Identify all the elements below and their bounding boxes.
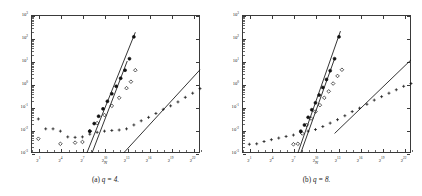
y-tick-label-a-5: 10-2 [21,127,28,133]
caption-a-prefix: (a) [92,176,100,184]
marker-diamond [125,86,129,90]
panel-a: 10310210110010-110-210-3 212427210213216… [0,0,211,196]
marker-plus [37,117,40,120]
marker-circle [333,57,336,60]
y-tick-label-a-4: 10-1 [21,104,28,110]
y-tick-label-b-3: 100 [233,81,239,87]
caption-a: (a) q = 4. [0,176,211,184]
marker-plus [336,118,339,121]
marker-plus [277,137,280,140]
marker-circle [325,78,328,81]
y-tick-label-b-2: 101 [233,58,239,64]
marker-circle [93,122,96,125]
marker-plus [169,104,172,107]
marker-diamond [336,74,340,78]
marker-plus [314,128,317,131]
data-layer-b [242,15,411,153]
marker-circle [88,130,91,133]
marker-diamond [37,137,41,141]
marker-plus [154,112,157,115]
marker-circle [102,107,105,110]
marker-plus [395,88,398,91]
x-minor-tick-a [201,150,202,152]
marker-plus [103,130,106,133]
marker-circle [132,35,135,38]
marker-diamond [59,142,63,146]
marker-plus [52,127,55,130]
marker-plus [329,122,332,125]
marker-plus [351,110,354,113]
marker-diamond [327,90,331,94]
marker-circle [307,116,310,119]
marker-diamond [340,68,344,72]
y-tick-label-a-2: 101 [22,58,28,64]
marker-diamond [292,142,296,146]
marker-plus [184,96,187,99]
marker-circle [115,85,118,88]
slope-line-diamond-a [92,61,127,153]
caption-a-expression: q = 4. [102,176,119,184]
caption-b-prefix: (b) [303,176,311,184]
y-tick-label-b-1: 102 [233,35,239,41]
marker-plus [118,129,121,132]
marker-circle [128,57,131,60]
slope-line-plus-b [335,60,411,134]
y-axis-labels-b: 10310210110010-110-210-3 [211,0,242,172]
marker-plus [81,135,84,138]
marker-plus [380,95,383,98]
y-tick-label-a-1: 102 [22,35,28,41]
marker-plus [263,140,266,143]
x-axis-title-b: N [211,160,422,165]
marker-plus [387,92,390,95]
marker-plus [270,138,273,141]
marker-circle [119,77,122,80]
y-tick-label-b-4: 10-1 [232,104,239,110]
y-tick-label-b-5: 10-2 [232,127,239,133]
x-minor-tick-b [412,150,413,152]
marker-circle [310,108,313,111]
caption-b-expression: q = 8. [313,176,330,184]
marker-diamond [134,68,138,72]
marker-plus [199,87,202,90]
marker-plus [59,130,62,133]
marker-diamond [129,80,133,84]
marker-plus [191,92,194,95]
marker-plus [132,123,135,126]
y-axis-labels-a: 10310210110010-110-210-3 [0,0,31,172]
marker-plus [176,100,179,103]
caption-b: (b) q = 8. [211,176,422,184]
marker-plus [74,136,77,139]
marker-plus [343,114,346,117]
marker-circle [106,100,109,103]
marker-diamond [73,141,77,145]
marker-circle [321,86,324,89]
marker-plus [321,125,324,128]
marker-diamond [322,96,326,100]
marker-circle [329,69,332,72]
marker-plus [66,135,69,138]
marker-plus [292,134,295,137]
marker-diamond [81,140,85,144]
marker-plus [140,119,143,122]
panel-b: 10310210110010-110-210-3 212427210213216… [211,0,422,196]
slope-line-circle-b [298,31,341,153]
plot-area-b: 10310210110010-110-210-3 212427210213216… [211,0,422,172]
marker-diamond [117,96,121,100]
slope-line-diamond-b [301,59,335,153]
marker-plus [285,135,288,138]
marker-plus [96,131,99,134]
marker-plus [402,85,405,88]
marker-plus [410,82,413,85]
diamond-series-a [37,68,138,145]
plot-area-a: 10310210110010-110-210-3 212427210213216… [0,0,211,172]
marker-plus [147,116,150,119]
marker-plus [110,129,113,132]
marker-plus [248,143,251,146]
figure-two-panel-loglog: 10310210110010-110-210-3 212427210213216… [0,0,422,196]
marker-plus [255,142,258,145]
y-tick-label-a-3: 100 [22,81,28,87]
marker-plus [373,99,376,102]
marker-diamond [331,82,335,86]
marker-circle [314,101,317,104]
marker-circle [337,35,340,38]
